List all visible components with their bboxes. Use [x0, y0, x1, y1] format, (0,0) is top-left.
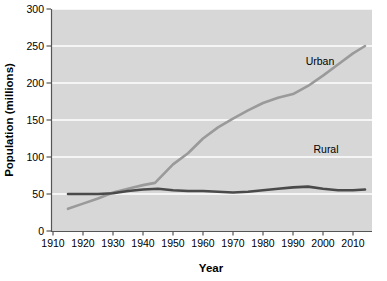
- x-tick-label-1990: 1990: [281, 237, 305, 249]
- y-tick-label-50: 50: [32, 188, 44, 200]
- x-tick-label-1960: 1960: [191, 237, 215, 249]
- y-tick-label-100: 100: [26, 151, 44, 163]
- x-tick-label-1940: 1940: [131, 237, 155, 249]
- x-tick-label-1910: 1910: [41, 237, 65, 249]
- y-axis-ticks: 050100150200250300: [26, 3, 51, 237]
- x-tick-label-2000: 2000: [311, 237, 335, 249]
- x-tick-label-1980: 1980: [251, 237, 275, 249]
- series-label-rural: Rural: [313, 143, 338, 155]
- y-axis-title: Population (millions): [3, 63, 15, 177]
- population-chart: 050100150200250300 191019201930194019501…: [0, 0, 387, 281]
- y-tick-label-0: 0: [38, 225, 44, 237]
- series-label-urban: Urban: [306, 55, 335, 67]
- x-tick-label-2010: 2010: [341, 237, 365, 249]
- x-axis-ticks: 1910192019301940195019601970198019902000…: [41, 231, 365, 249]
- y-tick-label-250: 250: [26, 40, 44, 52]
- x-axis-title: Year: [199, 262, 224, 274]
- y-tick-label-200: 200: [26, 77, 44, 89]
- x-tick-label-1920: 1920: [71, 237, 95, 249]
- x-tick-label-1930: 1930: [101, 237, 125, 249]
- y-tick-label-150: 150: [26, 114, 44, 126]
- chart-svg: 050100150200250300 191019201930194019501…: [0, 0, 387, 281]
- x-tick-label-1970: 1970: [221, 237, 245, 249]
- y-tick-label-300: 300: [26, 3, 44, 15]
- x-tick-label-1950: 1950: [161, 237, 185, 249]
